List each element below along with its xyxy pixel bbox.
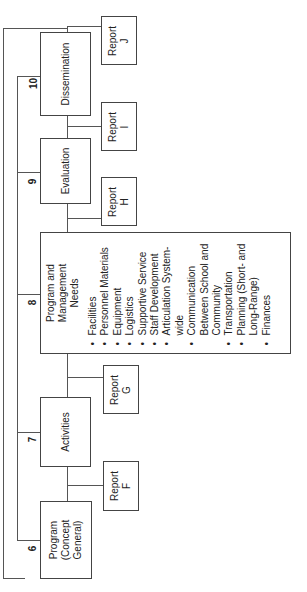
report-label: Report J: [107, 25, 131, 55]
step-number-8: 8: [27, 300, 38, 306]
needs-item: Supportive Service: [136, 235, 148, 346]
report-label: Report F: [109, 471, 133, 501]
tick-7: [17, 432, 40, 433]
connector-report-i: [67, 126, 101, 127]
needs-title: Program and Management Needs: [45, 235, 81, 352]
needs-item: Facilities: [87, 235, 99, 346]
needs-item: Finances: [260, 235, 272, 346]
needs-list: Facilities Personnel Materials Equipment…: [87, 235, 273, 352]
needs-item: Planning (Short- and Long-Range): [235, 235, 260, 346]
inner-sequence-line: [17, 76, 18, 541]
step-number-9: 9: [27, 179, 38, 185]
needs-content: Program and Management Needs Facilities …: [43, 235, 289, 352]
report-label: Report G: [109, 374, 133, 404]
connector-report-j-horizontal: [67, 26, 101, 27]
tick-9: [17, 172, 40, 173]
report-f: Report F: [103, 461, 139, 511]
tick-10: [17, 76, 40, 77]
needs-item: Logistics: [124, 235, 136, 346]
tick-6: [17, 540, 40, 541]
report-i: Report I: [101, 102, 137, 151]
report-h: Report H: [101, 177, 137, 226]
report-g: Report G: [103, 365, 139, 414]
needs-item: Equipment: [111, 235, 123, 346]
needs-item: Staff Development: [149, 235, 161, 346]
report-label: Report I: [107, 111, 131, 141]
stage-activities: Activities: [40, 397, 91, 467]
stage-program-management-needs: Program and Management Needs Facilities …: [40, 232, 291, 354]
needs-item: Articulation System-wide: [161, 235, 186, 346]
tick-8: [17, 294, 40, 295]
connector-activities-program: [67, 466, 68, 501]
connector-report-f: [67, 485, 103, 486]
stage-label: Evaluation: [60, 148, 72, 195]
stage-dissemination: Dissemination: [40, 32, 91, 116]
needs-item: Communication Between School and Communi…: [186, 235, 223, 346]
step-number-10: 10: [28, 78, 39, 89]
outer-bracket-bottom-tick: [3, 578, 25, 579]
stage-label: Program (Concept General): [48, 520, 84, 561]
connector-needs-activities: [67, 353, 68, 397]
step-number-6: 6: [27, 546, 38, 552]
connector-report-h: [67, 218, 101, 219]
outer-bracket-vertical: [3, 28, 4, 579]
report-label: Report H: [107, 186, 131, 216]
report-j: Report J: [101, 16, 137, 65]
stage-label: Activities: [60, 412, 72, 451]
connector-report-g: [67, 377, 103, 378]
needs-item: Personnel Materials: [99, 235, 111, 346]
step-number-7: 7: [27, 437, 38, 443]
outer-bracket-top: [3, 28, 67, 29]
stage-label: Dissemination: [60, 43, 72, 106]
stage-evaluation: Evaluation: [40, 138, 91, 204]
stage-program-concept-general: Program (Concept General): [40, 501, 92, 579]
needs-item: Transportation: [223, 235, 235, 346]
